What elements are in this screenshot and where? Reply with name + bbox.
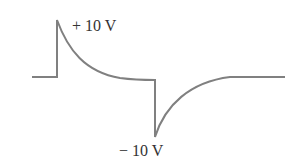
waveform-trace bbox=[32, 20, 285, 137]
positive-peak-label: + 10 V bbox=[72, 18, 116, 34]
negative-peak-label: − 10 V bbox=[119, 143, 163, 159]
waveform-diagram: + 10 V − 10 V bbox=[0, 0, 305, 161]
waveform-svg bbox=[0, 0, 305, 161]
